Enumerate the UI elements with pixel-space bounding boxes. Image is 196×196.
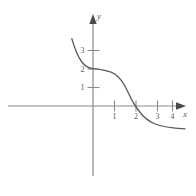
graph-figure: 1 2 3 4 1 2 3 y x [0,0,196,196]
x-tick-label-1: 1 [113,113,117,121]
x-axis-label: x [183,110,187,119]
x-tick-label-4: 4 [171,113,175,121]
y-tick-label-2: 2 [81,66,85,74]
curve-path [72,39,185,129]
x-tick-label-2: 2 [134,113,138,121]
y-tick-label-1: 1 [81,84,85,92]
y-axis-arrow-icon [89,14,96,24]
plot-canvas [0,0,196,196]
y-tick-label-3: 3 [81,47,85,55]
y-axis-label: y [97,12,101,21]
x-tick-label-3: 3 [156,113,160,121]
